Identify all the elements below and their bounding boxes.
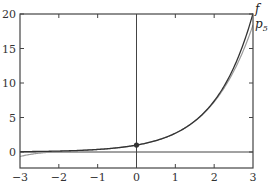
y-tick-label: 5: [9, 112, 16, 125]
x-tick-label: −1: [90, 171, 106, 184]
chart: −3−2−1012305101520 f p5: [0, 0, 269, 188]
anchor-point: [134, 143, 139, 148]
series-label-p5: p5: [255, 17, 268, 33]
x-tick-label: 3: [250, 171, 257, 184]
x-tick-label: 2: [211, 171, 218, 184]
y-tick-label: 15: [2, 43, 16, 56]
x-tick-label: 0: [133, 171, 140, 184]
x-tick-label: −2: [51, 171, 67, 184]
x-tick-label: 1: [172, 171, 179, 184]
series-label-p5-sub: 5: [263, 24, 268, 33]
y-tick-label: 10: [2, 77, 16, 90]
point-marker: [134, 143, 139, 148]
series-label-f: f: [254, 2, 262, 16]
y-tick-label: 0: [9, 146, 16, 159]
x-tick-label: −3: [12, 171, 28, 184]
y-tick-label: 20: [2, 8, 16, 21]
